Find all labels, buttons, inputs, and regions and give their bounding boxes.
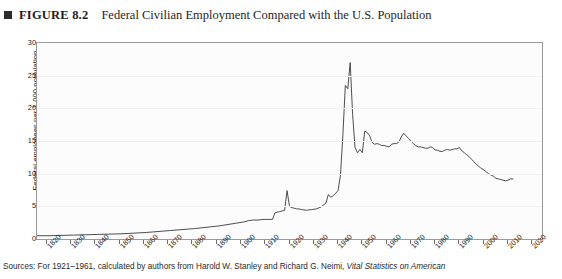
gridline	[37, 174, 542, 175]
plot-area	[36, 42, 543, 240]
chart-region: Federal employees per 1,000 population 0…	[0, 30, 562, 256]
source-note: Sources: For 1921–1961, calculated by au…	[3, 262, 559, 271]
source-note-title: Vital Statistics on American	[347, 262, 446, 271]
gridline	[37, 108, 542, 109]
gridline	[37, 141, 542, 142]
gridline	[37, 206, 542, 207]
series-path-federal-employees	[37, 63, 513, 236]
figure-number: FIGURE 8.2	[19, 8, 88, 23]
figure-title: Federal Civilian Employment Compared wit…	[101, 8, 431, 23]
figure-header: FIGURE 8.2 Federal Civilian Employment C…	[0, 0, 562, 30]
gridline	[37, 76, 542, 77]
source-note-prefix: Sources: For 1921–1961, calculated by au…	[3, 262, 344, 271]
filled-square-icon	[4, 11, 12, 19]
